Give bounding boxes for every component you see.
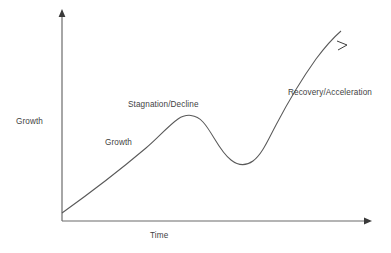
curve-end-tick-lower [338,45,347,50]
x-axis-arrowhead-icon [364,218,372,225]
lifecycle-curve-diagram: Growth Time Growth Stagnation/Decline Re… [0,0,391,253]
annotation-recovery-acceleration: Recovery/Acceleration [288,89,372,97]
y-axis [59,9,66,221]
x-axis-label: Time [150,232,168,240]
y-axis-label: Growth [16,118,43,126]
x-axis [62,218,372,225]
curve-end-tick-icon [337,41,347,50]
annotation-stagnation-decline: Stagnation/Decline [128,101,199,109]
curve-end-tick-upper [337,41,347,45]
lifecycle-curve-path [62,31,341,213]
y-axis-arrowhead-icon [59,9,66,17]
diagram-canvas [0,0,391,253]
annotation-growth: Growth [105,139,132,147]
